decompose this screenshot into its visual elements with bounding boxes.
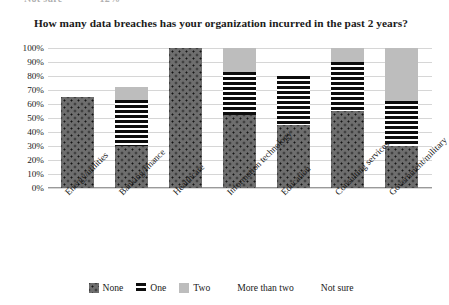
- legend-item-two[interactable]: Two: [179, 283, 210, 293]
- y-tick-label: 20%: [4, 156, 44, 165]
- bar-segment-two[interactable]: [223, 48, 256, 72]
- legend-item-not-sure[interactable]: Not sure: [307, 283, 354, 293]
- bar-segment-not-sure[interactable]: [61, 48, 94, 97]
- none-swatch: [89, 283, 99, 293]
- legend-label: One: [150, 283, 166, 293]
- y-axis-tick-labels: 0%10%20%30%40%50%60%70%80%90%100%: [0, 48, 44, 188]
- legend-label: Two: [193, 283, 210, 293]
- y-tick-label: 0%: [4, 184, 44, 193]
- clipped-header-row: Not sure 12%: [0, 0, 442, 9]
- clipped-header-label: Not sure: [24, 0, 63, 4]
- bar-segment-one[interactable]: [331, 62, 364, 111]
- y-tick-label: 60%: [4, 100, 44, 109]
- bar-segment-one[interactable]: [223, 72, 256, 115]
- y-tick-label: 40%: [4, 128, 44, 137]
- clipped-header-value: 12%: [99, 0, 120, 4]
- y-tick-label: 70%: [4, 86, 44, 95]
- chart-legend: NoneOneTwoMore than twoNot sure: [0, 283, 442, 293]
- bar-segment-one[interactable]: [115, 100, 148, 146]
- one-swatch: [136, 283, 146, 293]
- bar-segment-one[interactable]: [385, 101, 418, 146]
- bar-segment-two[interactable]: [385, 48, 418, 101]
- bar-segment-two[interactable]: [115, 87, 148, 100]
- more-than-two-swatch: [223, 283, 233, 293]
- x-axis-category-labels: Energy/utilitiesBanking/financeHealthcar…: [48, 190, 442, 260]
- y-tick-label: 50%: [4, 114, 44, 123]
- y-tick-label: 100%: [4, 44, 44, 53]
- bar-segment-not-sure[interactable]: [115, 48, 148, 87]
- two-swatch: [179, 283, 189, 293]
- bar-segment-not-sure[interactable]: [277, 48, 310, 76]
- legend-label: Not sure: [321, 283, 354, 293]
- y-tick-label: 80%: [4, 72, 44, 81]
- not-sure-swatch: [307, 283, 317, 293]
- bar-segment-two[interactable]: [331, 48, 364, 62]
- legend-label: More than two: [237, 283, 294, 293]
- legend-label: None: [103, 283, 124, 293]
- y-tick-label: 90%: [4, 58, 44, 67]
- legend-item-one[interactable]: One: [136, 283, 166, 293]
- y-tick-label: 10%: [4, 170, 44, 179]
- chart-title: How many data breaches has your organiza…: [0, 17, 442, 29]
- y-tick-label: 30%: [4, 142, 44, 151]
- legend-item-more-than-two[interactable]: More than two: [223, 283, 294, 293]
- legend-item-none[interactable]: None: [89, 283, 124, 293]
- plot-area: [48, 48, 432, 188]
- bar-segment-one[interactable]: [277, 76, 310, 125]
